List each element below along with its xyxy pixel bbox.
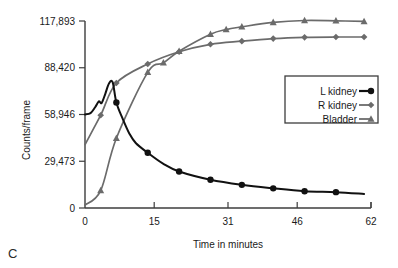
data-point-triangle-marker xyxy=(113,134,120,141)
x-axis-title-text: Time in minutes xyxy=(193,239,263,250)
y-tick-label: 0 xyxy=(69,203,75,214)
renogram-line-chart: Counts/frame 029,47358,94688,420117,893 … xyxy=(0,0,398,268)
y-axis-ticks: 029,47358,94688,420117,893 xyxy=(40,16,85,214)
data-point-diamond-marker xyxy=(97,112,104,119)
x-tick-label: 31 xyxy=(222,216,234,227)
panel-label: C xyxy=(8,246,17,261)
legend-items: L kidneyR kidneyBladder xyxy=(318,86,374,125)
legend-label-l-kidney: L kidney xyxy=(320,86,357,97)
data-point-diamond-marker xyxy=(207,41,214,48)
data-point-diamond-marker xyxy=(239,38,246,45)
data-point-circle-marker xyxy=(368,88,374,94)
data-point-diamond-marker xyxy=(333,34,340,41)
data-point-diamond-marker xyxy=(361,34,368,41)
data-point-circle-marker xyxy=(239,182,245,188)
data-point-circle-marker xyxy=(301,188,307,194)
data-point-circle-marker xyxy=(145,150,151,156)
x-tick-label: 62 xyxy=(365,216,377,227)
chart-legend: L kidneyR kidneyBladder xyxy=(285,76,378,125)
y-axis-title: Counts/frame xyxy=(21,100,32,160)
legend-label-r-kidney: R kidney xyxy=(318,100,357,111)
figure-panel: Counts/frame 029,47358,94688,420117,893 … xyxy=(0,0,398,268)
y-tick-label: 117,893 xyxy=(40,16,76,27)
y-tick-label: 29,473 xyxy=(44,156,75,167)
x-tick-label: 0 xyxy=(82,216,88,227)
y-tick-label: 58,946 xyxy=(44,109,75,120)
data-point-circle-marker xyxy=(270,185,276,191)
y-tick-label: 88,420 xyxy=(44,62,75,73)
data-point-triangle-marker xyxy=(97,187,104,194)
x-axis-ticks: 015314662 xyxy=(82,202,377,227)
x-tick-label: 46 xyxy=(292,216,304,227)
data-point-circle-marker xyxy=(333,189,339,195)
data-point-circle-marker xyxy=(176,168,182,174)
data-point-diamond-marker xyxy=(144,61,151,68)
data-point-circle-marker xyxy=(207,177,213,183)
data-point-circle-marker xyxy=(113,99,119,105)
x-tick-label: 15 xyxy=(149,216,161,227)
data-point-diamond-marker xyxy=(301,34,308,41)
y-axis-title-text: Counts/frame xyxy=(21,100,32,160)
data-point-diamond-marker xyxy=(270,35,277,42)
legend-label-bladder: Bladder xyxy=(323,114,358,125)
